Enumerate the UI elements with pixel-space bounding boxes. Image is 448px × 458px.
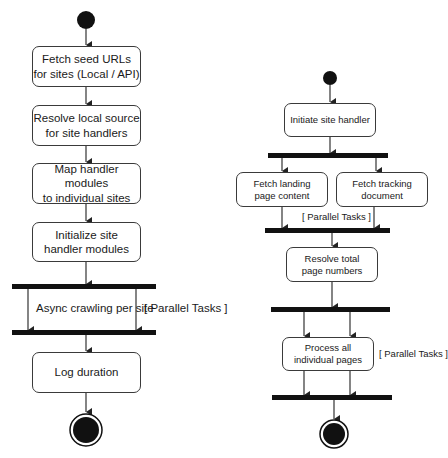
right-fork-bar-1 (268, 153, 388, 158)
left-fork-bar (12, 284, 156, 289)
left-initial-node (77, 11, 95, 29)
activity-process-individual-pages: Process all individual pages (282, 337, 374, 371)
activity-resolve-total-pages: Resolve total page numbers (286, 247, 378, 282)
activity-fetch-tracking-document: Fetch tracking document (336, 172, 428, 207)
activity-async-crawling: Async crawling per site (36, 302, 154, 314)
guard-parallel-tasks-process: [ Parallel Tasks ] (379, 348, 448, 359)
guard-parallel-tasks-fetch: [ Parallel Tasks ] (302, 211, 371, 222)
right-initial-node (323, 71, 337, 85)
guard-parallel-tasks-left: [ Parallel Tasks ] (144, 302, 228, 314)
right-join-bar-1 (265, 228, 390, 233)
right-final-node (323, 423, 345, 445)
right-join-bar-2 (272, 395, 392, 400)
activity-fetch-seed-urls: Fetch seed URLs for sites (Local / API) (32, 46, 141, 87)
activity-resolve-local-source: Resolve local source for site handlers (32, 105, 141, 146)
right-fork-bar-2 (271, 307, 390, 312)
left-join-bar (12, 330, 156, 335)
activity-fetch-landing-page: Fetch landing page content (236, 172, 328, 207)
activity-log-duration: Log duration (32, 352, 141, 393)
activity-map-handler-modules: Map handler modules to individual sites (32, 163, 141, 204)
activity-initialize-site-handlers: Initialize site handler modules (32, 222, 141, 262)
left-final-node (73, 417, 99, 443)
activity-initiate-site-handler: Initiate site handler (284, 103, 376, 137)
